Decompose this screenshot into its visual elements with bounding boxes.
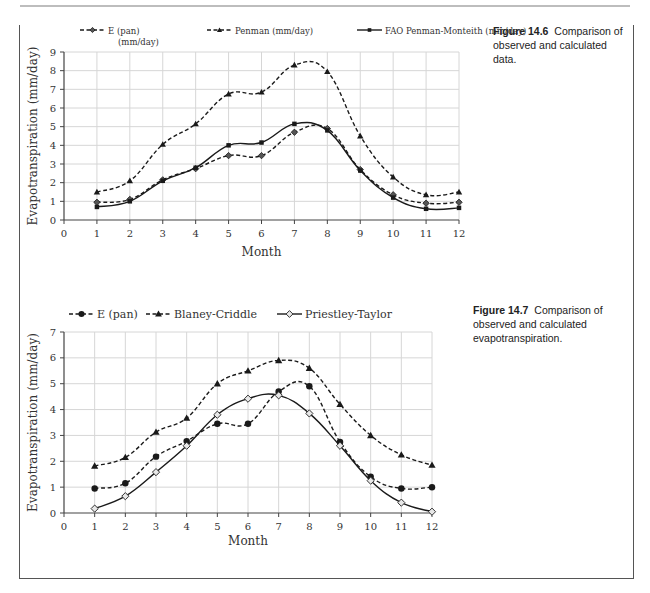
circle-marker xyxy=(91,485,97,491)
x-tick-label: 3 xyxy=(153,521,159,532)
y-tick-label: 9 xyxy=(50,47,56,58)
open-diamond-marker xyxy=(286,311,293,318)
circle-marker xyxy=(214,421,220,427)
series-line xyxy=(95,394,432,512)
x-tick-label: 7 xyxy=(275,521,281,532)
y-tick-label: 5 xyxy=(50,378,56,389)
y-tick-label: 4 xyxy=(50,404,56,415)
legend-label: Penman (mm/day) xyxy=(235,26,313,36)
x-tick-label: 7 xyxy=(291,228,297,239)
triangle-marker xyxy=(122,454,129,460)
x-tick-label: 6 xyxy=(245,521,251,532)
square-marker xyxy=(292,122,296,126)
x-tick-label: 3 xyxy=(160,228,166,239)
legend-item: FAO Penman-Monteith (mm/day) xyxy=(357,26,526,36)
circle-marker xyxy=(398,485,404,491)
x-tick-label: 0 xyxy=(61,228,67,239)
square-marker xyxy=(325,128,329,132)
series-fao-penman-monteith-mm-day- xyxy=(95,122,462,211)
square-marker xyxy=(259,140,263,144)
x-tick-label: 6 xyxy=(258,228,264,239)
legend-label: FAO Penman-Monteith (mm/day) xyxy=(385,26,526,36)
legend-item: Penman (mm/day) xyxy=(207,26,313,36)
circle-marker xyxy=(245,421,251,427)
square-marker xyxy=(358,168,362,172)
open-diamond-marker xyxy=(122,493,129,500)
legend-item: E (pan)(mm/day) xyxy=(80,26,159,48)
triangle-marker xyxy=(324,68,330,74)
series-blaney-criddle xyxy=(91,357,436,469)
x-tick-label: 2 xyxy=(127,228,133,239)
triangle-marker xyxy=(127,178,133,184)
charts-canvas: 01234567890123456789101112MonthEvapotran… xyxy=(0,0,650,593)
x-axis-title: Month xyxy=(228,534,268,548)
chart-figure-14-6: 01234567890123456789101112MonthEvapotran… xyxy=(26,26,526,260)
y-tick-label: 7 xyxy=(50,327,56,338)
diamond-marker xyxy=(225,152,231,158)
x-tick-label: 4 xyxy=(192,228,198,239)
triangle-marker xyxy=(152,428,159,434)
x-tick-label: 11 xyxy=(420,228,433,239)
legend-item: E (pan) xyxy=(69,308,138,321)
open-diamond-marker xyxy=(91,505,98,512)
x-tick-label: 4 xyxy=(183,521,189,532)
open-diamond-marker xyxy=(428,508,435,515)
circle-marker xyxy=(153,453,159,459)
legend-item: Priestley-Taylor xyxy=(277,308,393,321)
chart-figure-14-7: 012345670123456789101112MonthEvapotransp… xyxy=(26,308,438,549)
y-tick-label: 3 xyxy=(50,159,56,170)
y-tick-label: 6 xyxy=(50,352,56,363)
series-line xyxy=(95,360,432,466)
x-tick-label: 9 xyxy=(337,521,343,532)
x-tick-label: 11 xyxy=(395,521,408,532)
legend-label: E (pan) xyxy=(97,308,138,321)
y-tick-label: 1 xyxy=(50,196,56,207)
triangle-marker xyxy=(291,62,297,68)
series-penman-mm-day- xyxy=(94,61,462,197)
diamond-marker xyxy=(94,199,100,205)
circle-marker xyxy=(429,484,435,490)
x-axis-title: Month xyxy=(242,245,282,259)
square-marker xyxy=(95,205,99,209)
square-marker xyxy=(424,207,428,211)
triangle-marker xyxy=(398,451,405,457)
triangle-marker xyxy=(428,462,435,468)
square-marker xyxy=(161,179,165,183)
triangle-marker xyxy=(183,415,190,421)
series-line xyxy=(97,122,459,209)
circle-marker xyxy=(306,383,312,389)
series-e-pan- xyxy=(91,381,435,491)
diamond-marker xyxy=(258,152,264,158)
x-tick-label: 2 xyxy=(122,521,128,532)
legend-label: Blaney-Criddle xyxy=(174,308,257,321)
legend-item: Blaney-Criddle xyxy=(146,308,257,321)
x-tick-label: 10 xyxy=(364,521,377,532)
y-tick-label: 3 xyxy=(50,430,56,441)
y-axis-title: Evapotranspiration (mm/day) xyxy=(26,47,40,226)
x-tick-label: 12 xyxy=(426,521,439,532)
series-priestley-taylor xyxy=(91,392,436,516)
diamond-marker xyxy=(456,199,462,205)
diamond-marker xyxy=(90,27,95,32)
y-tick-label: 2 xyxy=(50,456,56,467)
y-tick-label: 6 xyxy=(50,103,56,114)
y-tick-label: 1 xyxy=(50,482,56,493)
y-tick-label: 0 xyxy=(50,215,56,226)
triangle-marker xyxy=(357,133,363,139)
square-marker xyxy=(368,28,372,32)
square-marker xyxy=(391,195,395,199)
circle-marker xyxy=(78,311,84,317)
y-tick-label: 2 xyxy=(50,177,56,188)
open-diamond-marker xyxy=(244,395,251,402)
square-marker xyxy=(226,143,230,147)
x-tick-label: 1 xyxy=(91,521,97,532)
legend-label: (mm/day) xyxy=(118,37,159,47)
x-tick-label: 12 xyxy=(453,228,466,239)
diamond-marker xyxy=(291,129,297,135)
y-tick-label: 5 xyxy=(50,121,56,132)
legend-label: E (pan) xyxy=(108,26,140,36)
gridlines xyxy=(64,52,459,220)
circle-marker xyxy=(122,480,128,486)
y-tick-label: 8 xyxy=(50,65,56,76)
y-tick-label: 4 xyxy=(50,140,56,151)
